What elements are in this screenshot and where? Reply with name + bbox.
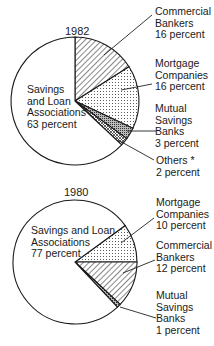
label-1982-commercial-bankers: Commercial Bankers 16 percent — [155, 6, 211, 41]
label-1980-mutual-savings-banks: Mutual Savings Banks 1 percent — [156, 290, 200, 336]
label-1980-commercial-bankers: Commercial Bankers 12 percent — [156, 240, 212, 275]
pie-1982-title: 1982 — [65, 25, 89, 37]
leader-1982-others — [118, 140, 154, 160]
pie-charts-figure: 1982 Commercial Bankers 16 percent Mortg… — [0, 0, 214, 346]
pie-1980 — [13, 200, 137, 324]
label-1982-mutual-savings-banks: Mutual Savings Banks 3 percent — [155, 103, 199, 149]
pie-1980-title: 1980 — [64, 186, 88, 198]
leader-1982-commercial — [104, 15, 152, 55]
label-1980-savings-and-loan: Savings and Loan Associations 77 percent — [31, 225, 115, 260]
label-1982-others: Others * 2 percent — [156, 155, 200, 178]
label-1982-mortgage-companies: Mortgage Companies 16 percent — [155, 58, 208, 93]
leader-1980-mutual — [120, 307, 156, 318]
label-1982-savings-and-loan: Savings and Loan Associations 63 percent — [27, 84, 86, 130]
label-1980-mortgage-companies: Mortgage Companies 10 percent — [156, 197, 209, 232]
